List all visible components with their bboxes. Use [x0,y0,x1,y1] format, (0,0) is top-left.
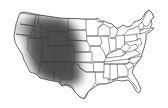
us-map-svg [0,0,168,108]
us-map: United States (contiguous) with shaded w… [0,0,168,108]
land [0,0,168,108]
